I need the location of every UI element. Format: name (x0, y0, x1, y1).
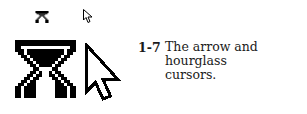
hourglass-icon-large (15, 40, 76, 98)
arrow-cursor-icon-large (85, 43, 121, 104)
caption-line-2: cursors. (165, 68, 305, 82)
caption-line-1: The arrow and hourglass (165, 40, 305, 68)
hourglass-icon-small (35, 11, 49, 23)
figure-number: 1-7 (138, 40, 161, 55)
figure-caption: The arrow and hourglass cursors. (165, 40, 305, 82)
arrow-cursor-icon-small (83, 9, 94, 24)
